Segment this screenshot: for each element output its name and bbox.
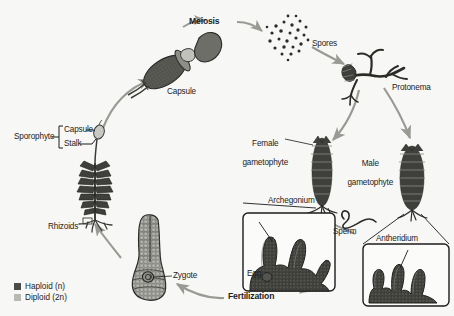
legend-swatch-diploid [14,294,21,301]
sporophyte-plant [77,120,113,232]
label-egg: Egg [247,269,261,279]
arrow-capsule-to-meiosis [103,80,150,128]
arrow-fertilization-to-zygote [177,284,224,298]
protonema-structure [340,50,407,105]
legend-swatch-haploid [14,283,21,290]
legend-item-diploid: Diploid (2n) [14,292,67,303]
label-capsule-structure: Capsule [167,87,196,97]
label-rhizoids: Rhizoids [48,222,78,232]
label-bracket-capsule: Capsule [64,125,93,135]
label-archegonium: Archegonium [268,196,315,206]
archegonium-box [243,213,335,291]
label-female-gametophyte: Female gametophyte [230,129,292,177]
legend-item-haploid: Haploid (n) [14,281,67,292]
label-meiosis: Meiosis [189,17,219,27]
arrow-spores-to-protonema [312,47,344,64]
label-male-gametophyte: Male gametophyte [335,149,397,197]
label-male-gametophyte-line1: Male [362,159,379,168]
legend: Haploid (n) Diploid (2n) [14,281,67,303]
label-male-gametophyte-line2: gametophyte [347,178,393,187]
legend-label-diploid: Diploid (2n) [25,293,67,302]
zygote-structure [132,215,172,301]
label-protonema: Protonema [392,83,431,93]
sperm-flagellum-icon [342,211,376,229]
label-fertilization: Fertilization [228,292,274,302]
label-zygote: Zygote [173,271,197,281]
legend-label-haploid: Haploid (n) [25,282,65,291]
arrow-protonema-to-male [384,88,410,138]
label-sperm: Sperm [333,227,356,237]
label-sporophyte: Sporophyte [14,132,54,142]
label-female-gametophyte-line2: gametophyte [242,158,288,167]
label-spores: Spores [312,39,337,49]
label-antheridium: Antheridium [376,234,418,244]
arrow-zygote-to-sporophyte [95,224,121,258]
antheridium-box [363,244,449,306]
label-female-gametophyte-line1: Female [252,139,278,148]
spore-dots-icon [266,15,310,62]
label-bracket-stalk: Stalk [64,139,81,149]
diagram-canvas: Meiosis Spores Protonema Capsule Sporoph… [0,0,454,316]
